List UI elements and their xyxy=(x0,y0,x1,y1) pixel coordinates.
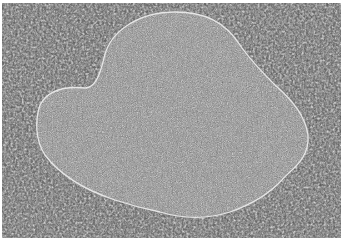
image-canvas xyxy=(2,3,341,238)
noise-image xyxy=(2,3,341,238)
